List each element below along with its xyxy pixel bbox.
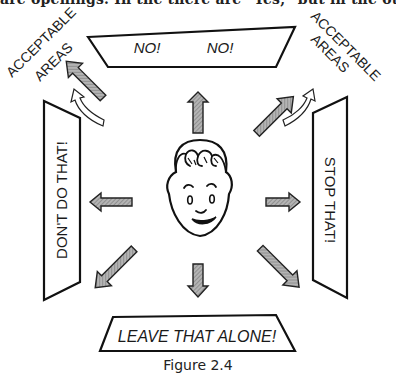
sign-bottom-label: LEAVE THAT ALONE! <box>118 328 277 345</box>
figure-diagram: NO! NO! DON'T DO THAT! STOP THAT! LEAVE … <box>0 0 396 382</box>
sign-bottom: LEAVE THAT ALONE! <box>100 315 295 351</box>
arrow-up-icon <box>188 92 208 133</box>
arrow-down-icon <box>188 264 208 297</box>
arrow-down-right-icon <box>253 241 306 294</box>
arrow-down-left-icon <box>88 242 141 295</box>
arrow-up-left-icon <box>59 54 110 105</box>
arrow-left-icon <box>90 193 132 211</box>
sign-left: DON'T DO THAT! <box>44 101 80 300</box>
sign-top-word1: NO! <box>134 39 162 56</box>
sign-right-label: STOP THAT! <box>322 157 339 243</box>
figure-caption: Figure 2.4 <box>0 357 396 373</box>
sign-left-label: DON'T DO THAT! <box>53 141 70 259</box>
arrow-right-icon <box>266 193 300 211</box>
child-face-illustration <box>167 140 232 236</box>
sign-top: NO! NO! <box>88 27 295 67</box>
sign-right: STOP THAT! <box>313 97 347 298</box>
acceptable-areas-right: ACCEPTABLE AREAS <box>308 8 384 84</box>
sign-top-word2: NO! <box>207 39 235 56</box>
